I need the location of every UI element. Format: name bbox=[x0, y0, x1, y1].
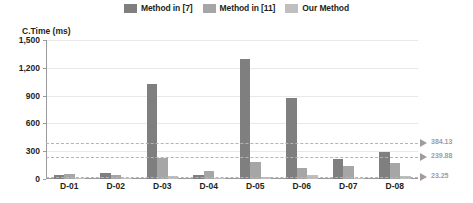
bar-group bbox=[46, 40, 93, 179]
bar bbox=[379, 152, 390, 179]
legend-swatch-icon bbox=[203, 4, 216, 13]
bar bbox=[286, 98, 297, 179]
legend-item-method-7: Method in [7] bbox=[124, 3, 193, 13]
x-axis-label: D-02 bbox=[93, 181, 140, 191]
bar bbox=[111, 175, 122, 179]
bar bbox=[121, 178, 132, 179]
y-tick-label: 300 bbox=[26, 146, 40, 156]
bar bbox=[147, 84, 158, 179]
bar-group bbox=[372, 40, 419, 179]
x-axis-label: D-04 bbox=[186, 181, 233, 191]
bar bbox=[333, 159, 344, 179]
arrow-right-icon bbox=[420, 173, 427, 181]
bar bbox=[54, 175, 65, 179]
y-tick-label: 1,500 bbox=[19, 35, 40, 45]
bar bbox=[261, 177, 272, 179]
x-axis-label: D-08 bbox=[372, 181, 419, 191]
bar bbox=[400, 176, 411, 179]
y-tick-label: 600 bbox=[26, 118, 40, 128]
bar bbox=[100, 173, 111, 179]
bar bbox=[64, 174, 75, 179]
arrow-right-icon bbox=[420, 153, 427, 161]
legend-item-our-method: Our Method bbox=[285, 3, 349, 13]
x-axis-label: D-06 bbox=[279, 181, 326, 191]
y-tick-label: 1,200 bbox=[19, 63, 40, 73]
bars-layer bbox=[46, 40, 418, 179]
y-tick-label: 900 bbox=[26, 91, 40, 101]
bar bbox=[75, 178, 86, 179]
bar bbox=[297, 168, 308, 179]
bar-group bbox=[232, 40, 279, 179]
bar bbox=[250, 162, 261, 179]
legend-label: Method in [7] bbox=[141, 3, 193, 13]
annotation-value-label: 23.25 bbox=[431, 172, 449, 179]
legend-swatch-icon bbox=[124, 4, 137, 13]
legend-label: Method in [11] bbox=[220, 3, 276, 13]
bar bbox=[354, 178, 365, 179]
x-axis-label: D-01 bbox=[46, 181, 93, 191]
bar bbox=[193, 175, 204, 179]
bar bbox=[343, 166, 354, 179]
legend-label: Our Method bbox=[302, 3, 349, 13]
legend-item-method-11: Method in [11] bbox=[203, 3, 276, 13]
x-axis-label: D-07 bbox=[325, 181, 372, 191]
bar-group bbox=[186, 40, 233, 179]
bar bbox=[240, 59, 251, 179]
bar bbox=[204, 171, 215, 179]
bar-group bbox=[93, 40, 140, 179]
plot-area: 03006009001,2001,500 bbox=[46, 40, 418, 179]
y-tick-mark bbox=[43, 179, 46, 180]
chart-legend: Method in [7] Method in [11] Our Method bbox=[0, 3, 473, 13]
bar bbox=[390, 163, 401, 179]
arrow-right-icon bbox=[420, 139, 427, 147]
annotation-value-label: 384.13 bbox=[431, 138, 452, 145]
bar-group bbox=[139, 40, 186, 179]
x-axis-label: D-03 bbox=[139, 181, 186, 191]
bar bbox=[307, 175, 318, 179]
annotation-value-label: 239.88 bbox=[431, 152, 452, 159]
y-tick-label: 0 bbox=[35, 174, 40, 184]
x-axis-labels: D-01D-02D-03D-04D-05D-06D-07D-08 bbox=[46, 181, 418, 197]
bar-group bbox=[325, 40, 372, 179]
bar bbox=[157, 158, 168, 179]
x-axis-label: D-05 bbox=[232, 181, 279, 191]
legend-swatch-icon bbox=[285, 4, 298, 13]
bar-group bbox=[279, 40, 326, 179]
bar bbox=[168, 176, 179, 179]
bar bbox=[214, 178, 225, 179]
chart-container: Method in [7] Method in [11] Our Method … bbox=[0, 0, 473, 203]
